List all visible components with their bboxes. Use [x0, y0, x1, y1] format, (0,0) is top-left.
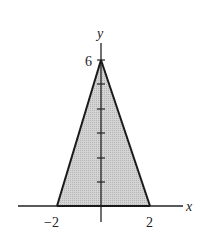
y-tick-label-6: 6: [85, 54, 92, 69]
y-axis-label: y: [95, 26, 104, 41]
x-axis-label: x: [185, 199, 193, 214]
x-tick-label-2: 2: [146, 215, 153, 230]
x-tick-label-neg2: −2: [44, 215, 59, 230]
figure-canvas: y 6 x −2 2: [0, 0, 200, 238]
